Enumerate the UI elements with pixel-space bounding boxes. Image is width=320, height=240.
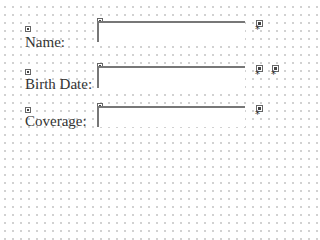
required-pin-icon: * (255, 20, 264, 34)
label-anchor-icon (25, 26, 31, 32)
coverage-field[interactable] (97, 106, 245, 127)
required-pin-icon: * (255, 65, 264, 79)
date-format-pin-icon: * (271, 65, 280, 79)
birth-date-label: Birth Date: (25, 76, 92, 92)
required-pin-icon: * (255, 105, 264, 119)
birth-date-field[interactable] (97, 66, 245, 88)
label-anchor-icon (25, 69, 31, 75)
name-label: Name: (25, 34, 65, 50)
coverage-label: Coverage: (25, 113, 87, 129)
name-field[interactable] (97, 21, 245, 42)
